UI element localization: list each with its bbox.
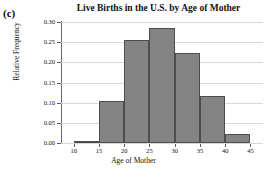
y-tick-label-group: 0.000.050.100.150.200.250.30: [29, 0, 55, 170]
x-tick-label: 35: [190, 147, 210, 155]
plot-area: [61, 22, 263, 143]
y-tick-label: 0.25: [31, 38, 55, 45]
x-tick-label: 25: [139, 147, 159, 155]
y-axis-label: Relative Frequency: [12, 12, 21, 92]
x-tick-label: 10: [64, 147, 84, 155]
y-tick-label: 0.05: [31, 119, 55, 126]
x-axis-label: Age of Mother: [61, 156, 206, 165]
histogram-bar: [225, 134, 250, 143]
x-tick-label: 30: [165, 147, 185, 155]
x-tick-label: 20: [114, 147, 134, 155]
histogram-bar: [149, 28, 174, 143]
chart-title: Live Births in the U.S. by Age of Mother: [52, 3, 265, 14]
histogram-bar: [200, 96, 225, 143]
histogram-bar: [74, 141, 99, 143]
x-tick-label: 45: [240, 147, 260, 155]
y-tick-label: 0.00: [31, 139, 55, 146]
y-tick-label: 0.20: [31, 58, 55, 65]
y-tick-label: 0.15: [31, 79, 55, 86]
y-tick-label: 0.10: [31, 99, 55, 106]
y-tick-label: 0.30: [31, 18, 55, 25]
gridline: [61, 143, 263, 144]
histogram-bar: [99, 101, 124, 143]
x-tick-label: 15: [89, 147, 109, 155]
gridline: [61, 22, 263, 23]
histogram-bar: [124, 40, 149, 143]
histogram-bar: [175, 53, 200, 143]
figure-panel: (c) Live Births in the U.S. by Age of Mo…: [0, 0, 267, 170]
x-tick-label: 40: [215, 147, 235, 155]
